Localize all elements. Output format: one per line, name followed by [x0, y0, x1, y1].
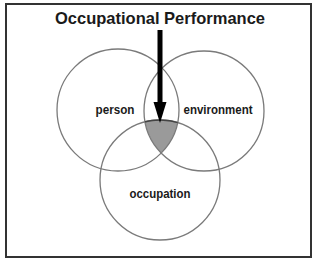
- label-environment: environment: [184, 102, 254, 117]
- diagram-title: Occupational Performance: [55, 9, 265, 28]
- label-person: person: [96, 102, 135, 117]
- label-occupation: occupation: [130, 186, 191, 201]
- venn-diagram: Occupational Performance person environm…: [0, 0, 314, 261]
